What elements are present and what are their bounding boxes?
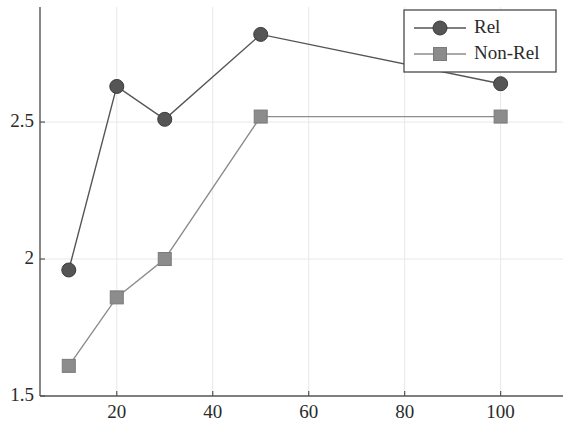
series-line-non-rel bbox=[62, 110, 507, 372]
y-axis-tick-label: 2.5 bbox=[10, 110, 34, 132]
plot-area bbox=[0, 0, 563, 427]
x-axis-tick-label: 100 bbox=[461, 401, 541, 423]
legend-entry-label: Rel bbox=[474, 16, 500, 38]
x-axis-tick-label: 40 bbox=[173, 401, 253, 423]
x-axis-tick-label: 20 bbox=[77, 401, 157, 423]
chart-container: 1.522.5 20406080100 RelNon-Rel bbox=[0, 0, 563, 427]
y-axis-tick-label: 1.5 bbox=[10, 384, 34, 406]
x-axis-tick-label: 60 bbox=[269, 401, 349, 423]
x-axis-tick-label: 80 bbox=[365, 401, 445, 423]
y-axis-tick-label: 2 bbox=[25, 247, 35, 269]
legend-entry-label: Non-Rel bbox=[474, 42, 539, 64]
